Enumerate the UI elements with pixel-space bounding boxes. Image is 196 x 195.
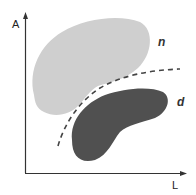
y-axis-arrow-icon [23, 12, 28, 19]
region-n-label: n [158, 36, 165, 48]
region-d-label: d [177, 96, 184, 108]
diagram-canvas [0, 0, 196, 195]
x-axis-arrow-icon [180, 171, 187, 176]
y-axis-label: A [12, 19, 19, 30]
x-axis-label: L [172, 180, 178, 191]
